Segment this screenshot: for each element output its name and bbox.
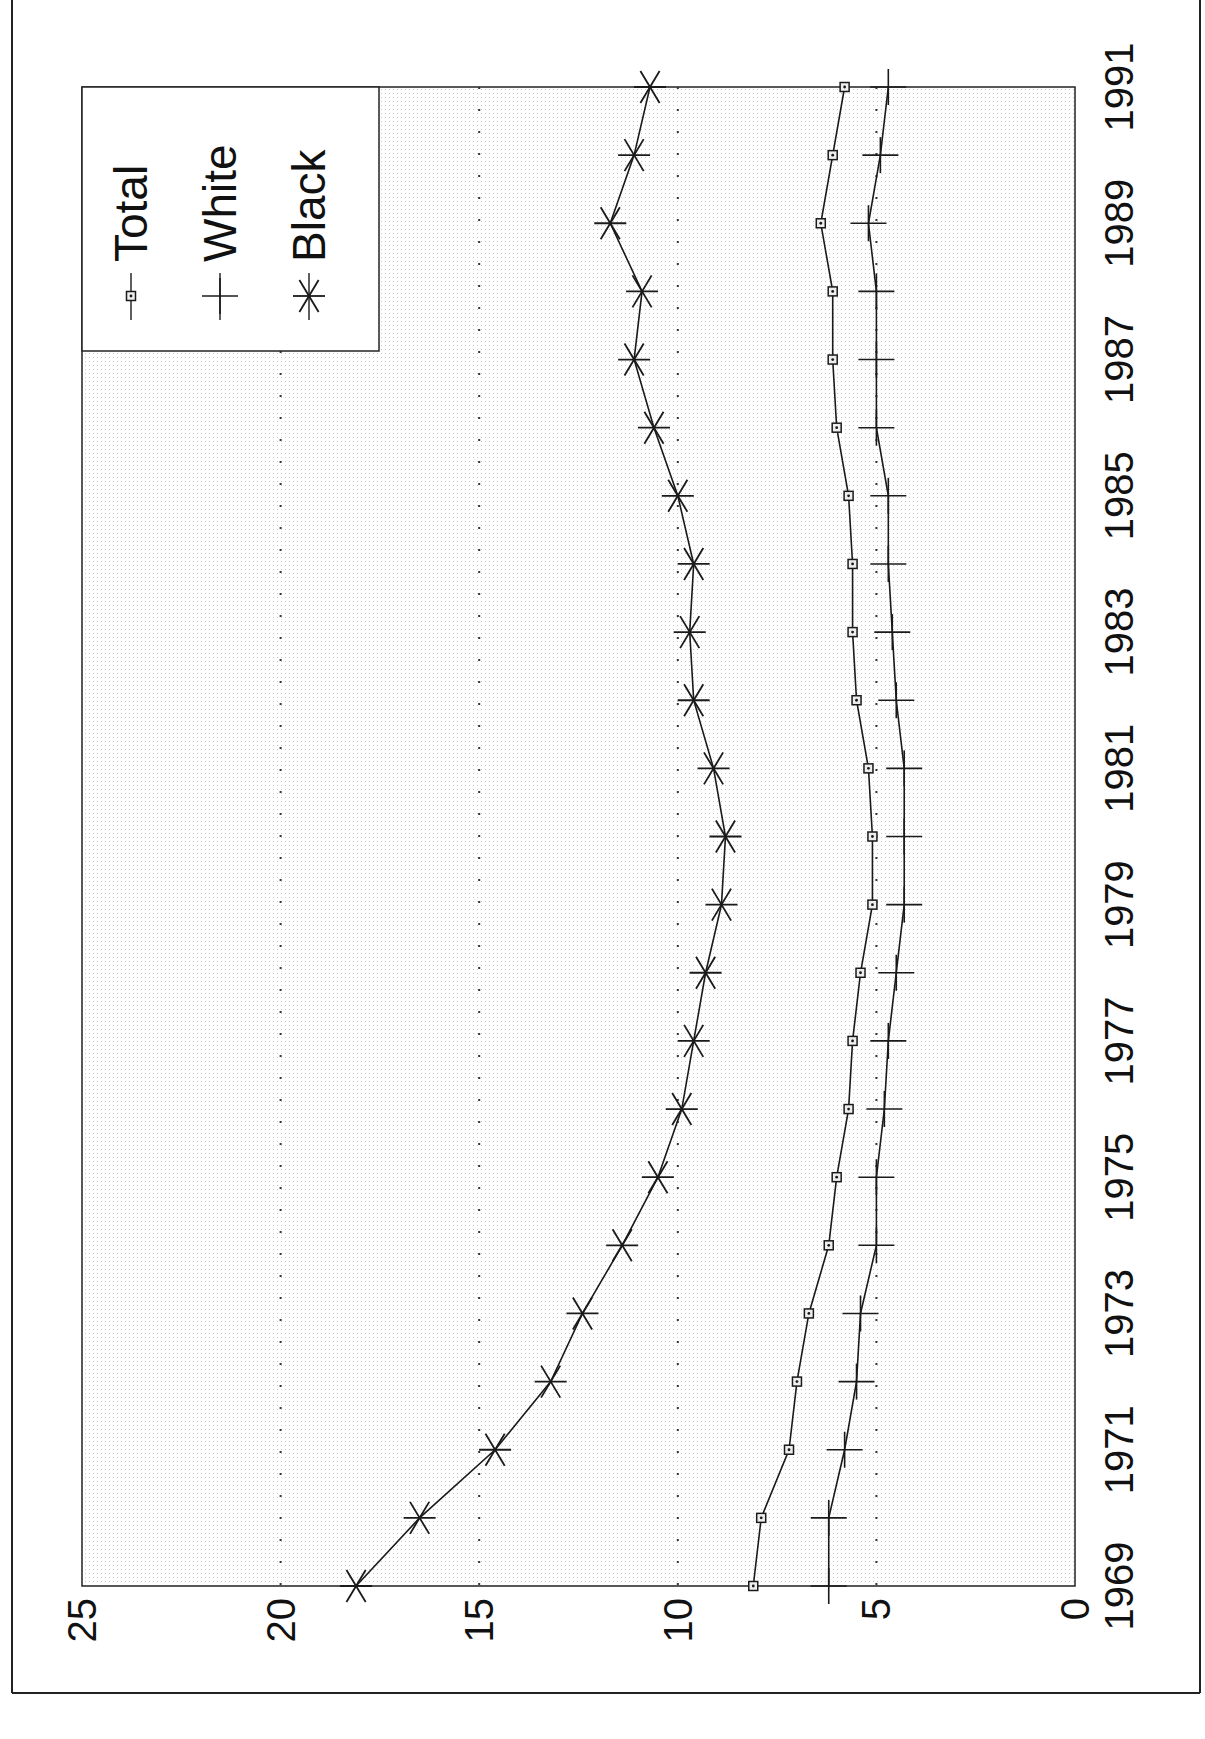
year-tick-label: 1977 [1097,996,1141,1085]
legend-label: Total [105,165,157,262]
legend: TotalWhiteBlack [82,87,379,351]
value-tick-label: 15 [457,1598,501,1643]
legend-label: Black [283,149,335,262]
year-tick-label: 1969 [1097,1542,1141,1631]
year-tick-label: 1981 [1097,724,1141,813]
year-tick-label: 1979 [1097,860,1141,949]
value-tick-label: 25 [60,1598,104,1643]
line-chart: 0510152025196919711973197519771979198119… [0,0,1205,1739]
value-tick-label: 5 [854,1598,898,1620]
value-tick-label: 10 [656,1598,700,1643]
legend-label: White [194,144,246,262]
year-tick-label: 1989 [1097,179,1141,268]
year-tick-label: 1971 [1097,1405,1141,1494]
value-tick-label: 20 [259,1598,303,1643]
year-tick-label: 1985 [1097,451,1141,540]
year-tick-label: 1973 [1097,1269,1141,1358]
value-tick-label: 0 [1053,1598,1097,1620]
year-tick-label: 1987 [1097,315,1141,404]
year-tick-label: 1983 [1097,588,1141,677]
year-tick-label: 1975 [1097,1133,1141,1222]
year-tick-label: 1991 [1097,43,1141,132]
chart: 0510152025196919711973197519771979198119… [0,0,1205,1739]
